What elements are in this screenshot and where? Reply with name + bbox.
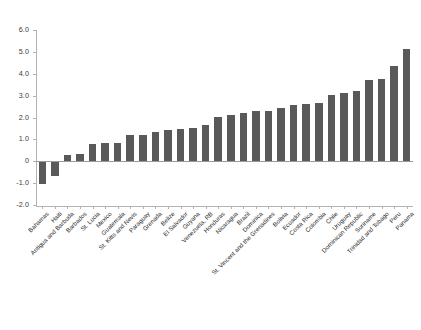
bar[interactable] [315, 103, 323, 162]
y-axis-tick-label: 5.0 [19, 47, 29, 56]
x-axis-tick-mark [319, 206, 320, 209]
y-axis-tick: 3.0 [0, 96, 36, 97]
x-axis-label: Bahamas [27, 210, 50, 233]
y-axis-tick: 1.0 [0, 139, 36, 140]
bar-slot [114, 30, 122, 205]
plot-area [36, 30, 413, 205]
bar[interactable] [403, 49, 411, 162]
bar-slot [365, 30, 373, 205]
bar[interactable] [164, 130, 172, 161]
bar-slot [378, 30, 386, 205]
bar[interactable] [240, 113, 248, 161]
x-axis-tick-mark [42, 206, 43, 209]
x-axis-tick-mark [80, 206, 81, 209]
x-axis-tick-mark [118, 206, 119, 209]
y-axis-tick-label: -2.0 [16, 200, 29, 209]
bar-slot [39, 30, 47, 205]
bar[interactable] [277, 108, 285, 162]
bar[interactable] [365, 80, 373, 161]
bar-chart: 6.05.04.03.02.01.00-1.0-2.0 BahamasHaiti… [0, 0, 421, 330]
bar[interactable] [252, 111, 260, 161]
y-axis-tick-label: 0 [25, 156, 29, 165]
bar[interactable] [39, 161, 47, 184]
bar-slot [403, 30, 411, 205]
bar[interactable] [202, 125, 210, 162]
bar-slot [315, 30, 323, 205]
y-axis-tick: 6.0 [0, 30, 36, 31]
bar[interactable] [214, 117, 222, 161]
bar-slot [177, 30, 185, 205]
zero-baseline [36, 161, 413, 162]
bar-slot [189, 30, 197, 205]
y-axis-tick-label: 2.0 [19, 113, 29, 122]
bar-slot [277, 30, 285, 205]
y-axis-tick: 2.0 [0, 118, 36, 119]
x-axis-tick-mark [268, 206, 269, 209]
x-axis-tick-mark [394, 206, 395, 209]
x-axis-tick-mark [105, 206, 106, 209]
bar-slot [227, 30, 235, 205]
bar-slot [101, 30, 109, 205]
bar[interactable] [177, 129, 185, 161]
x-axis-tick-mark [155, 206, 156, 209]
y-axis-tick-label: 3.0 [19, 91, 29, 100]
bar[interactable] [328, 95, 336, 161]
x-axis-tick-mark [130, 206, 131, 209]
bar-slot [390, 30, 398, 205]
bar[interactable] [126, 135, 134, 161]
bar[interactable] [390, 66, 398, 161]
x-axis-tick-mark [243, 206, 244, 209]
y-axis-tick: 5.0 [0, 52, 36, 53]
x-axis-tick-mark [356, 206, 357, 209]
bar[interactable] [51, 161, 59, 176]
bar-slot [164, 30, 172, 205]
x-axis-tick-mark [294, 206, 295, 209]
bar[interactable] [89, 144, 97, 161]
bar-slot [353, 30, 361, 205]
bar-slot [202, 30, 210, 205]
bar-slot [214, 30, 222, 205]
y-axis-tick-label: 6.0 [19, 25, 29, 34]
x-axis-tick-mark [168, 206, 169, 209]
bar[interactable] [340, 93, 348, 161]
x-axis-tick-mark [231, 206, 232, 209]
y-axis-tick-mark [33, 205, 36, 206]
bar-slot [328, 30, 336, 205]
bar[interactable] [101, 143, 109, 162]
bar-slot [126, 30, 134, 205]
bar[interactable] [290, 105, 298, 161]
x-axis-tick-mark [407, 206, 408, 209]
x-axis-tick-mark [206, 206, 207, 209]
x-axis-tick-mark [382, 206, 383, 209]
x-axis-labels: BahamasHaitiAntigua and BarbudaBarbadosS… [36, 207, 413, 330]
x-axis-tick-mark [55, 206, 56, 209]
x-axis-tick-mark [256, 206, 257, 209]
bar[interactable] [265, 111, 273, 162]
x-axis-tick-mark [331, 206, 332, 209]
x-axis-tick-mark [369, 206, 370, 209]
x-axis-tick-mark [93, 206, 94, 209]
bar[interactable] [353, 91, 361, 161]
bar-slot [252, 30, 260, 205]
y-axis-tick: 0 [0, 161, 36, 162]
bar-slot [64, 30, 72, 205]
bar[interactable] [114, 143, 122, 162]
bar[interactable] [189, 128, 197, 161]
y-axis-tick-label: 4.0 [19, 69, 29, 78]
bar-slot [302, 30, 310, 205]
bar-slot [76, 30, 84, 205]
y-axis-tick: -2.0 [0, 205, 36, 206]
y-axis-tick: -1.0 [0, 183, 36, 184]
y-axis-tick: 4.0 [0, 74, 36, 75]
bar[interactable] [227, 115, 235, 161]
bar-slot [290, 30, 298, 205]
x-axis-tick-mark [67, 206, 68, 209]
bar[interactable] [378, 79, 386, 162]
x-axis-tick-mark [143, 206, 144, 209]
bar-slot [51, 30, 59, 205]
bar[interactable] [76, 154, 84, 161]
bar[interactable] [139, 135, 147, 161]
x-axis-tick-mark [344, 206, 345, 209]
bar[interactable] [152, 132, 160, 162]
bar[interactable] [302, 104, 310, 161]
